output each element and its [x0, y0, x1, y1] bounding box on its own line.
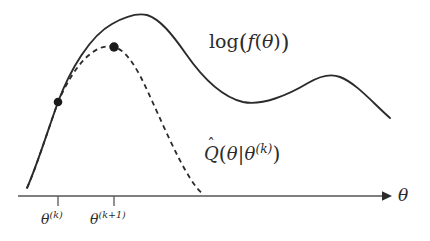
- q-hat-surrogate-label: Qˆ(θ|θ(k)): [204, 143, 280, 164]
- q-with-hat: Qˆ: [204, 145, 219, 163]
- inner-open-paren: (: [254, 30, 261, 52]
- tick-label-theta-k-plus-1: θ(k+1): [90, 210, 126, 226]
- q-open-paren: (: [219, 142, 227, 166]
- conditional-bar: |: [237, 143, 244, 164]
- q-superscript-k: (k): [255, 142, 272, 156]
- tick-k1-superscript: (k+1): [98, 209, 125, 220]
- next-estimate-point: [109, 42, 118, 51]
- inner-close-paren: ): [273, 30, 280, 52]
- q-theta-cond: θ: [245, 143, 256, 164]
- q-close-paren: ): [272, 142, 280, 166]
- surrogate-q-curve: [27, 46, 202, 193]
- x-axis-variable-label: θ: [398, 187, 408, 204]
- current-estimate-point: [54, 98, 63, 107]
- outer-close-paren: ): [281, 29, 290, 55]
- hat-accent-icon: ˆ: [207, 137, 215, 152]
- x-axis-arrowhead: [382, 191, 392, 201]
- em-algorithm-figure: log(f(θ)) Qˆ(θ|θ(k)) θ θ(k) θ(k+1): [0, 0, 430, 241]
- tick-k-superscript: (k): [49, 209, 62, 220]
- q-theta-arg: θ: [227, 143, 238, 164]
- theta-symbol: θ: [262, 30, 273, 52]
- tick-label-theta-k: θ(k): [41, 210, 63, 226]
- log-f-theta-label: log(f(θ)): [209, 31, 290, 53]
- log-operator: log: [209, 30, 239, 52]
